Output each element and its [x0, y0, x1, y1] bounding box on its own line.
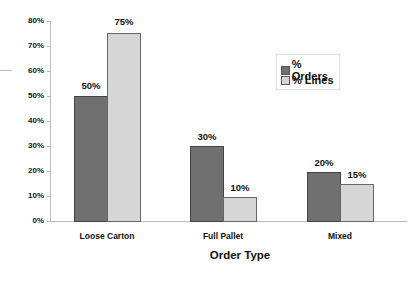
y-tick: 30%	[14, 141, 44, 150]
legend: % Orders % Lines	[276, 54, 340, 90]
category-label: Mixed	[290, 231, 390, 241]
bar-orders-loose-carton	[74, 96, 108, 222]
value-label: 75%	[104, 16, 144, 27]
value-label: 20%	[304, 157, 344, 168]
tick-mark	[47, 121, 50, 122]
tick-mark	[47, 21, 50, 22]
y-tick: 20%	[14, 166, 44, 175]
bar-orders-full-pallet	[190, 146, 224, 222]
bar-lines-loose-carton	[107, 33, 141, 222]
bar-orders-mixed	[307, 172, 341, 222]
bar-lines-mixed	[340, 184, 374, 222]
y-tick: 10%	[14, 191, 44, 200]
value-label: 30%	[187, 131, 227, 142]
y-tick: 40%	[14, 116, 44, 125]
y-tick: 50%	[14, 91, 44, 100]
tick-mark	[47, 46, 50, 47]
tick-mark	[47, 146, 50, 147]
category-label: Loose Carton	[57, 231, 157, 241]
tick-mark	[47, 171, 50, 172]
stray-line	[0, 70, 12, 71]
bar-lines-full-pallet	[223, 197, 257, 222]
legend-item-lines: % Lines	[281, 74, 334, 86]
legend-swatch	[281, 76, 290, 85]
tick-mark	[47, 96, 50, 97]
y-tick: 0%	[14, 216, 44, 225]
legend-label: % Lines	[292, 74, 334, 86]
y-tick: 60%	[14, 66, 44, 75]
x-axis-title: Order Type	[190, 249, 290, 261]
category-label: Full Pallet	[173, 231, 273, 241]
y-tick: 70%	[14, 41, 44, 50]
value-label: 15%	[337, 169, 377, 180]
y-tick: 80%	[14, 16, 44, 25]
tick-mark	[47, 196, 50, 197]
tick-mark	[47, 71, 50, 72]
y-axis-line	[50, 21, 51, 221]
value-label: 10%	[220, 182, 260, 193]
value-label: 50%	[71, 80, 111, 91]
